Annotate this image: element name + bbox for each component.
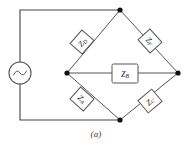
component-za: ZA xyxy=(70,87,94,111)
component-zb: ZB xyxy=(112,64,138,83)
figure-caption: (a) xyxy=(0,129,192,139)
node-bottom xyxy=(117,117,122,122)
node-top xyxy=(117,7,122,12)
node-right xyxy=(175,70,180,75)
component-zf: ZF xyxy=(138,29,162,53)
circuit-schematic: ZD ZF ZA ZC ZB xyxy=(0,0,192,149)
component-zc: ZC xyxy=(138,89,162,113)
component-zd: ZD xyxy=(70,30,94,54)
wire-source-to-bottom-node xyxy=(20,84,120,120)
wire-source-to-top-node xyxy=(20,10,120,62)
sine-wave-icon xyxy=(14,71,27,75)
bridge-circuit-figure: ZD ZF ZA ZC ZB xyxy=(0,0,192,149)
node-left xyxy=(64,70,69,75)
